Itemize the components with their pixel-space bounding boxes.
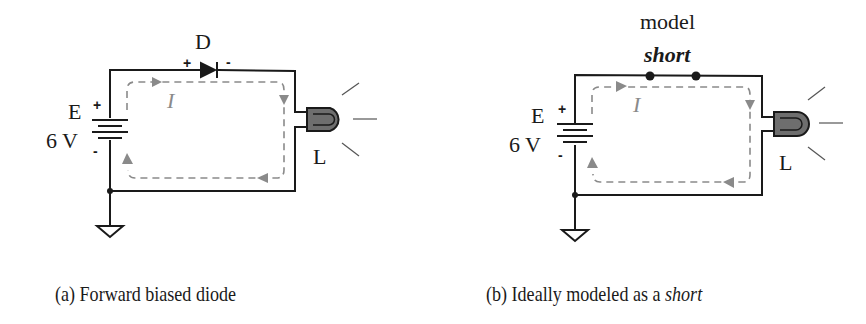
source-minus-sign: -	[558, 148, 563, 162]
arrow-icon	[122, 153, 133, 164]
arrow-icon	[616, 81, 627, 92]
caption-b: (b) Ideally modeled as a short	[486, 284, 702, 305]
current-path-b	[587, 81, 755, 188]
circuit-diagrams	[0, 0, 866, 324]
ground-icon	[97, 226, 123, 237]
source-value: 6 V	[46, 130, 78, 152]
arrow-icon	[745, 100, 755, 110]
light-ray-icon	[342, 83, 359, 95]
arrow-icon	[723, 177, 734, 188]
lamp-label: L	[779, 152, 792, 174]
caption-b-text: (b) Ideally modeled as a	[486, 282, 665, 306]
light-ray-icon	[808, 147, 825, 160]
circuit-a	[92, 62, 377, 237]
junction-dot	[572, 192, 578, 198]
source-plus-sign: +	[93, 98, 101, 112]
wire-top	[575, 75, 773, 123]
short-terminal-dot	[692, 72, 701, 81]
wire-top-right	[218, 70, 306, 112]
source-value: 6 V	[509, 134, 541, 156]
circuit-b	[557, 72, 843, 242]
arrow-icon	[257, 173, 268, 183]
caption-b-emph: short	[665, 282, 702, 306]
short-terminal-dot	[646, 72, 655, 81]
lamp-label: L	[313, 146, 326, 168]
diode-icon	[201, 63, 215, 77]
source-label: E	[68, 101, 81, 123]
junction-dot	[107, 188, 113, 194]
wire-top-left	[110, 70, 200, 118]
current-label: I	[167, 90, 174, 112]
arrow-icon	[587, 157, 598, 168]
short-label: short	[644, 44, 690, 66]
arrow-icon	[279, 95, 289, 105]
diode-plus-sign: +	[183, 56, 191, 70]
diode-minus-sign: -	[226, 55, 231, 69]
diode-label: D	[195, 31, 211, 53]
lamp-icon	[774, 112, 809, 136]
source-plus-sign: +	[558, 102, 566, 116]
wire-bottom	[575, 131, 773, 195]
current-path-a	[122, 77, 289, 183]
source-label: E	[531, 105, 544, 127]
light-ray-icon	[808, 87, 825, 100]
ground-icon	[562, 230, 588, 241]
wire-bottom	[110, 127, 306, 191]
source-minus-sign: -	[93, 144, 98, 158]
caption-a: (a) Forward biased diode	[55, 284, 236, 305]
model-label: model	[640, 11, 695, 33]
light-ray-icon	[342, 143, 359, 156]
arrow-icon	[152, 77, 162, 87]
current-label: I	[633, 94, 640, 116]
